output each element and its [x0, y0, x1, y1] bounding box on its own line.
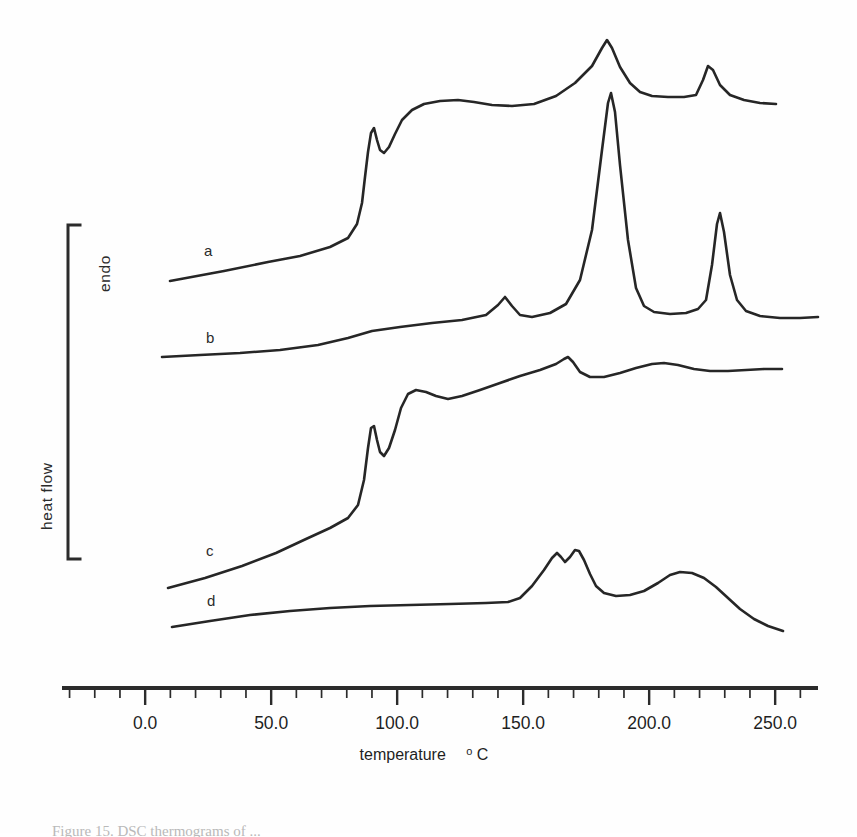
- temperature-caption: temperature o C: [360, 741, 489, 763]
- x-tick-label: 0.0: [133, 713, 158, 733]
- curve-group-a: a: [170, 40, 776, 281]
- figure-caption: Figure 15. DSC thermograms of ...: [52, 823, 812, 837]
- heat-flow-bracket: [68, 225, 80, 559]
- curve-label-d: d: [207, 592, 215, 609]
- x-axis: 0.050.0100.0150.0200.0250.0: [62, 688, 818, 733]
- curve-d-path: [172, 550, 783, 631]
- x-tick-label: 100.0: [375, 713, 419, 733]
- heat-flow-axis-label: heat flow: [38, 462, 55, 530]
- curve-b-path: [162, 93, 818, 357]
- curve-c-path: [168, 357, 782, 588]
- degree-superscript: o: [466, 745, 472, 757]
- x-tick-label: 150.0: [501, 713, 545, 733]
- x-tick-label: 200.0: [627, 713, 671, 733]
- temperature-word: temperature: [360, 746, 446, 763]
- celsius-letter: C: [477, 746, 489, 763]
- bracket-shape: [68, 225, 80, 559]
- x-tick-label: 50.0: [254, 713, 288, 733]
- curve-label-a: a: [204, 242, 213, 259]
- curve-group-d: d: [172, 550, 783, 631]
- x-axis-tick-labels: 0.050.0100.0150.0200.0250.0: [133, 713, 797, 733]
- x-tick-label: 250.0: [753, 713, 797, 733]
- x-axis-ticks: [70, 690, 801, 705]
- curve-label-b: b: [206, 329, 214, 346]
- endo-axis-label: endo: [96, 255, 113, 292]
- curve-a-path: [170, 40, 776, 281]
- curve-group-b: b: [162, 93, 818, 357]
- curve-label-c: c: [206, 542, 214, 559]
- x-axis-caption: temperature o C: [360, 741, 489, 763]
- curve-group-c: c: [168, 357, 782, 588]
